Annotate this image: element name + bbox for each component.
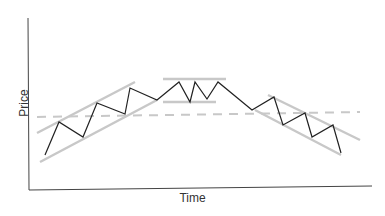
x-axis <box>29 186 372 190</box>
ascending-channel-lower <box>40 100 157 162</box>
x-axis-label: Time <box>0 191 385 205</box>
descending-channel-upper <box>268 95 360 140</box>
ascending-channel-upper <box>37 82 135 133</box>
guide-lines <box>37 79 360 162</box>
price-line <box>45 82 341 155</box>
price-series <box>45 82 341 155</box>
y-axis-label: Price <box>17 83 31 123</box>
chart <box>0 0 385 216</box>
